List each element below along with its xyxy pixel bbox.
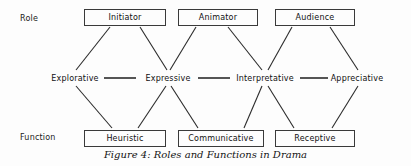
edge-expressive-communicative bbox=[171, 86, 198, 128]
edge-explorative-heuristic bbox=[76, 86, 112, 128]
middle-node-explorative[interactable]: Explorative bbox=[49, 73, 100, 84]
middle-node-expressive[interactable]: Expressive bbox=[143, 73, 192, 84]
middle-node-appreciative[interactable]: Appreciative bbox=[329, 73, 386, 84]
figure-caption: Figure 4: Roles and Functions in Drama bbox=[0, 149, 411, 160]
role-node-initiator[interactable]: Initiator bbox=[84, 9, 166, 26]
role-node-audience[interactable]: Audience bbox=[275, 9, 355, 26]
edge-initiator-explorative bbox=[76, 27, 110, 70]
edge-animator-interpretative bbox=[228, 27, 262, 70]
edge-expressive-heuristic bbox=[138, 86, 166, 128]
edge-animator-expressive bbox=[170, 27, 196, 70]
role-node-animator[interactable]: Animator bbox=[178, 9, 258, 26]
function-node-receptive[interactable]: Receptive bbox=[275, 130, 355, 147]
edge-communicative-interpretative bbox=[244, 86, 262, 128]
row-label-function: Function bbox=[20, 133, 56, 142]
edge-initiator-expressive bbox=[140, 27, 167, 70]
function-node-communicative[interactable]: Communicative bbox=[178, 130, 264, 147]
edge-audience-appreciative bbox=[330, 27, 358, 70]
figure-container: Role Function Initiator Animator Audienc… bbox=[0, 0, 411, 166]
edge-audience-interpretative bbox=[268, 27, 292, 70]
edge-appreciative-receptive bbox=[332, 86, 358, 128]
middle-node-interpretative[interactable]: Interpretative bbox=[234, 73, 296, 84]
row-label-role: Role bbox=[20, 14, 38, 23]
function-node-heuristic[interactable]: Heuristic bbox=[84, 130, 166, 147]
edge-interpretative-receptive bbox=[268, 86, 294, 128]
